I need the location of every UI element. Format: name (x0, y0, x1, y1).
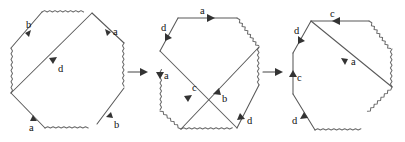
octagon-3-edge-upper-right (369, 21, 391, 49)
octagon-3-edge-bottom (315, 129, 361, 130)
octagon-2-arrowhead-d-top-left (165, 33, 172, 41)
octagon-3-label-c-left: c (297, 72, 302, 83)
octagon-3-label-d-bottom-left: d (292, 115, 298, 126)
octagon-2-label-a-top: a (200, 5, 205, 16)
octagon-3-arrowhead-a-diagonal (341, 58, 348, 65)
octagon-1-diagonal-d (11, 13, 92, 93)
octagon-3: c d a c d (289, 8, 392, 130)
octagon-1-label-b-top-left: b (26, 19, 31, 30)
octagon-1-label-a-bottom-left: a (29, 122, 34, 133)
octagon-3-arrowhead-c-left (289, 70, 297, 77)
octagon-2-arrowhead-a-left (156, 72, 164, 79)
octagon-2-diagonal-b (160, 51, 237, 128)
octagon-3-label-a-diagonal: a (351, 56, 356, 67)
octagon-1-arrowhead-b-bottom-right (106, 112, 113, 118)
octagon-2-arrowhead-a-top (207, 14, 215, 22)
octagon-2-label-c-diagonal: c (192, 82, 197, 93)
octagon-2-label-b-diagonal: b (222, 93, 227, 104)
figure-canvas: b a d a b (0, 0, 405, 142)
octagon-1-label-a-top-right: a (113, 26, 118, 37)
connector-2-arrowhead (275, 68, 283, 76)
arrow-octagon1-to-octagon2 (128, 68, 148, 76)
octagon-2-edge-right (257, 47, 259, 85)
octagon-2-arrowhead-c-diagonal (184, 95, 192, 102)
octagon-1-label-b-bottom-right: b (114, 119, 119, 130)
octagon-sequence-diagram: b a d a b (0, 0, 405, 142)
octagon-1-edge-bottom (45, 127, 88, 128)
octagon-1-edge-top (42, 11, 84, 12)
octagon-2: a d a c b d (156, 5, 259, 129)
octagon-2-label-d-top-left: d (161, 22, 167, 33)
octagon-2-label-a-left: a (164, 70, 169, 81)
connector-1-arrowhead (140, 68, 148, 76)
octagon-1-edge-upper-left (11, 12, 42, 48)
octagon-2-edge-lower-left (160, 111, 181, 129)
octagon-2-edge-bottom (181, 128, 232, 129)
octagon-3-diagonal-a (311, 21, 392, 87)
octagon-1-edge-left (11, 48, 13, 93)
octagon-2-label-d-lower-right: d (247, 115, 253, 126)
octagon-2-arrowhead-b-diagonal (213, 88, 221, 95)
octagon-3-label-c-top: c (330, 8, 335, 19)
octagon-3-arrowhead-d-bottom-left (300, 112, 308, 119)
arrow-octagon2-to-octagon3 (263, 68, 283, 76)
octagon-1-edge-upper-right (92, 13, 124, 43)
octagon-3-label-d-top-left: d (294, 25, 300, 36)
octagon-1-edge-lower-right (97, 88, 124, 124)
octagon-1: b a d a b (11, 11, 124, 133)
octagon-1-label-d-diagonal: d (58, 63, 64, 74)
octagon-1-edge-lower-left (11, 93, 45, 128)
octagon-1-arrowhead-d-diagonal (49, 57, 57, 64)
octagon-2-edge-upper-right (237, 18, 259, 46)
octagon-3-edge-right (390, 49, 392, 87)
octagon-1-edge-right (123, 43, 125, 86)
octagon-3-edge-lower-right (367, 87, 392, 111)
